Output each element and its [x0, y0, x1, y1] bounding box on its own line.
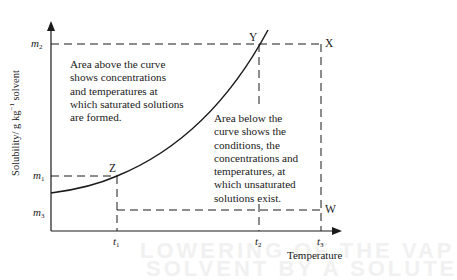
- y-axis-label: Solubility/ g kg−1 solvent: [8, 28, 24, 218]
- x-axis-label: Temperature: [287, 249, 342, 261]
- y-tick-m2: m2: [31, 37, 42, 51]
- annotation-above-curve: Area above the curve shows concentration…: [70, 58, 184, 124]
- point-label-y: Y: [249, 31, 257, 43]
- y-tick-m1: m1: [33, 169, 44, 183]
- annotation-below-curve: Area below the curve shows the condition…: [214, 112, 298, 205]
- x-tick-t1: t1: [113, 235, 120, 249]
- x-tick-t3: t3: [317, 235, 324, 249]
- x-axis-arrow-icon: [332, 227, 342, 235]
- y-tick-m3: m3: [33, 206, 44, 220]
- x-tick-t2: t2: [255, 235, 262, 249]
- y-axis-label-exponent: −1: [8, 103, 16, 110]
- point-label-x: X: [325, 37, 333, 49]
- y-axis-arrow-icon: [47, 21, 55, 31]
- point-label-z: Z: [109, 162, 116, 174]
- y-axis-label-suffix: solvent: [10, 70, 21, 103]
- y-axis-label-prefix: Solubility/ g kg: [10, 111, 21, 176]
- point-label-w: W: [325, 203, 336, 215]
